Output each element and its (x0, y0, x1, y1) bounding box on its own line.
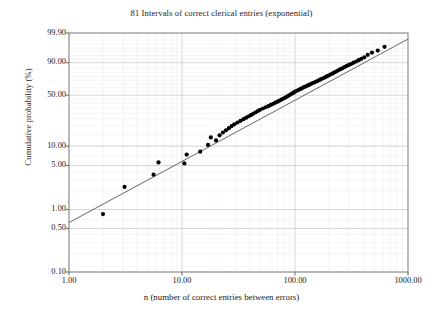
x-tick-label: 1000.00 (373, 276, 443, 285)
data-point (366, 53, 370, 57)
x-tick-label: 10.00 (147, 276, 217, 285)
data-point (382, 45, 386, 49)
data-point (214, 138, 218, 142)
data-point (370, 50, 374, 54)
data-point (151, 173, 155, 177)
data-point (101, 212, 105, 216)
x-tick-label: 100.00 (260, 276, 330, 285)
data-point (206, 143, 210, 147)
exponential-probability-plot: 81 Intervals of correct clerical entries… (0, 0, 443, 319)
plot-background (69, 33, 408, 272)
data-point (198, 150, 202, 154)
data-point (185, 153, 189, 157)
data-point (182, 161, 186, 165)
data-point (122, 185, 126, 189)
x-tick-label: 1.00 (34, 276, 104, 285)
data-point (217, 133, 221, 137)
data-point (362, 55, 366, 59)
data-point (156, 160, 160, 164)
plot-canvas (0, 0, 443, 319)
data-point (376, 48, 380, 52)
data-point (209, 135, 213, 139)
